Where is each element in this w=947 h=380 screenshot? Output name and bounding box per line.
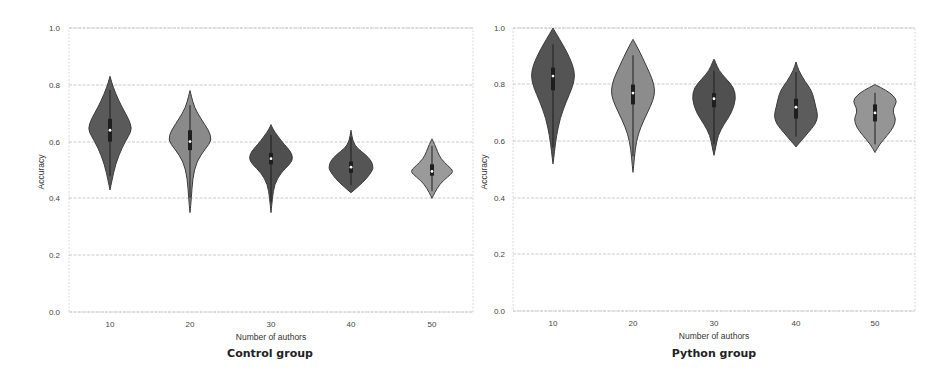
y-tick-label: 0.4 xyxy=(494,194,506,203)
y-axis-label: Accuracy xyxy=(36,154,46,190)
x-tick-label: 20 xyxy=(186,320,195,329)
median-marker xyxy=(189,140,192,143)
violin-group xyxy=(532,28,897,172)
y-axis-label: Accuracy xyxy=(479,154,489,190)
median-marker xyxy=(874,112,877,115)
y-axis: 1.0 0.8 0.6 0.4 0.2 0.0 Accuracy xyxy=(479,24,506,316)
y-tick-label: 0.2 xyxy=(494,250,506,259)
y-tick-label: 0.6 xyxy=(49,138,61,147)
iqr-box xyxy=(430,164,434,175)
y-axis: 1.0 0.8 0.6 0.4 0.2 0.0 Accuracy xyxy=(36,24,61,317)
violin-10 xyxy=(89,76,131,190)
x-tick-label: 20 xyxy=(629,319,638,328)
violin-50 xyxy=(412,139,453,199)
x-axis: 10 20 30 40 50 Number of authors xyxy=(106,320,437,342)
median-marker xyxy=(270,157,273,160)
median-marker xyxy=(713,97,716,100)
median-marker xyxy=(109,129,112,132)
control-group-plot: 1.0 0.8 0.6 0.4 0.2 0.0 Accuracy 10 20 3… xyxy=(0,0,475,380)
x-axis: 10 20 30 40 50 Number of authors xyxy=(549,319,880,341)
chart-title: Control group xyxy=(227,347,313,360)
plot-area xyxy=(69,28,473,312)
y-tick-label: 0.4 xyxy=(49,194,61,203)
violin-20 xyxy=(612,39,655,172)
violin-20 xyxy=(169,91,211,213)
iqr-box xyxy=(551,68,555,91)
y-tick-label: 1.0 xyxy=(49,24,61,33)
violin-50 xyxy=(854,85,896,153)
median-marker xyxy=(552,75,555,78)
x-tick-label: 50 xyxy=(428,320,437,329)
violin-30 xyxy=(250,125,293,213)
median-marker xyxy=(350,166,353,169)
control-group-chart: 1.0 0.8 0.6 0.4 0.2 0.0 Accuracy 10 20 3… xyxy=(0,0,475,380)
violin-group xyxy=(89,76,453,212)
y-tick-label: 1.0 xyxy=(494,24,506,33)
y-tick-label: 0.6 xyxy=(494,137,506,146)
x-tick-label: 50 xyxy=(871,319,880,328)
iqr-box xyxy=(712,93,716,107)
x-tick-label: 40 xyxy=(792,319,801,328)
chart-title: Python group xyxy=(672,347,756,360)
iqr-box xyxy=(631,85,635,105)
median-marker xyxy=(632,92,635,95)
plot-area xyxy=(513,28,915,311)
x-tick-label: 30 xyxy=(710,319,719,328)
iqr-box xyxy=(794,99,798,119)
y-tick-label: 0.8 xyxy=(494,80,506,89)
x-tick-label: 10 xyxy=(106,320,115,329)
violin-10 xyxy=(532,28,575,164)
y-tick-label: 0.8 xyxy=(49,81,61,90)
y-tick-label: 0.0 xyxy=(494,307,506,316)
x-tick-label: 30 xyxy=(267,320,276,329)
violin-40 xyxy=(775,62,818,147)
median-marker xyxy=(795,106,798,109)
x-tick-label: 40 xyxy=(347,320,356,329)
python-group-plot: 1.0 0.8 0.6 0.4 0.2 0.0 Accuracy 10 20 3… xyxy=(470,0,947,380)
y-tick-label: 0.2 xyxy=(49,251,61,260)
python-group-chart: 1.0 0.8 0.6 0.4 0.2 0.0 Accuracy 10 20 3… xyxy=(470,0,947,380)
x-axis-label: Number of authors xyxy=(679,331,749,341)
violin-40 xyxy=(329,130,373,193)
median-marker xyxy=(431,170,434,173)
x-tick-label: 10 xyxy=(549,319,558,328)
iqr-box xyxy=(188,130,192,150)
x-axis-label: Number of authors xyxy=(236,332,306,342)
y-tick-label: 0.0 xyxy=(49,308,61,317)
